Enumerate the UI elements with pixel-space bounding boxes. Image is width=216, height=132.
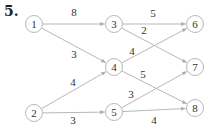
edge-weight-label: 2 [141, 24, 147, 36]
edge-weight-label: 8 [71, 6, 77, 18]
node-label: 8 [192, 102, 198, 114]
edge-weight-label: 4 [129, 45, 135, 57]
edge-5-8 [122, 108, 185, 111]
node-label: 6 [192, 18, 198, 30]
edge-weight-label: 5 [140, 68, 146, 80]
directed-graph: 8343524534 12345678 [0, 0, 216, 132]
edge-weight-label: 3 [70, 114, 76, 126]
node-label: 3 [111, 18, 117, 30]
nodes-group: 12345678 [26, 16, 204, 122]
edge-weight-label: 5 [150, 7, 156, 19]
edge-weight-label: 4 [151, 114, 157, 126]
node-label: 4 [111, 61, 117, 73]
edge-weight-label: 4 [70, 76, 76, 88]
node-label: 2 [31, 107, 37, 119]
edge-weight-label: 3 [128, 88, 134, 100]
node-label: 7 [192, 61, 198, 73]
node-label: 1 [31, 18, 37, 30]
edge-weight-label: 3 [71, 48, 77, 60]
node-label: 5 [111, 106, 117, 118]
edge-2-5 [42, 112, 104, 113]
